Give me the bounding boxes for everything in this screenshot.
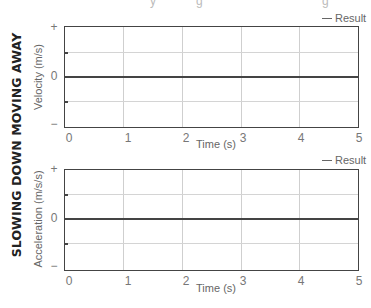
x-tick: 4: [298, 131, 305, 145]
legend-line-icon: [322, 160, 332, 161]
side-title: SLOWING DOWN MOVING AWAY: [9, 33, 24, 258]
y-tick-minus: −: [50, 117, 57, 131]
x-tick: 5: [356, 274, 363, 288]
x-tick: 2: [183, 274, 190, 288]
x-tick: 2: [183, 131, 190, 145]
gridline: [65, 52, 358, 53]
gridline: [65, 243, 358, 244]
zero-axis-line: [65, 76, 358, 78]
velocity-y-axis-label: Velocity (m/s): [32, 44, 44, 110]
legend-label: Result: [335, 12, 366, 24]
gridline: [123, 170, 124, 270]
gridline: [182, 170, 183, 270]
velocity-plot-area: [64, 26, 359, 128]
gridline: [65, 101, 358, 102]
y-tick-zero: 0: [51, 211, 58, 225]
y-tick-zero: 0: [51, 69, 58, 83]
cropped-text-fragment: g: [196, 0, 203, 8]
x-tick: 4: [298, 274, 305, 288]
legend-line-icon: [322, 18, 332, 19]
gridline: [65, 194, 358, 195]
x-tick: 1: [125, 131, 132, 145]
y-tick-mark: [64, 243, 68, 245]
cropped-text-fragment: y: [150, 0, 156, 8]
acceleration-y-axis-label: Acceleration (m/s/s): [32, 170, 44, 267]
x-tick: 0: [66, 274, 73, 288]
y-tick-plus: +: [50, 20, 57, 34]
velocity-legend: Result: [322, 12, 366, 24]
x-tick: 3: [240, 131, 247, 145]
y-tick-mark: [64, 101, 68, 103]
x-tick: 0: [66, 131, 73, 145]
y-tick-mark: [64, 52, 68, 54]
gridline: [241, 170, 242, 270]
acceleration-x-axis-label: Time (s): [196, 282, 236, 294]
x-tick: 1: [125, 274, 132, 288]
cropped-text-fragment: g: [322, 0, 329, 8]
y-tick-minus: −: [50, 259, 57, 273]
y-tick-mark: [64, 194, 68, 196]
gridline: [299, 170, 300, 270]
y-tick-plus: +: [50, 162, 57, 176]
x-tick: 5: [356, 131, 363, 145]
acceleration-plot-area: [64, 169, 359, 271]
legend-label: Result: [335, 154, 366, 166]
velocity-x-axis-label: Time (s): [196, 138, 236, 150]
x-tick: 3: [240, 274, 247, 288]
zero-axis-line: [65, 218, 358, 220]
acceleration-legend: Result: [322, 154, 366, 166]
